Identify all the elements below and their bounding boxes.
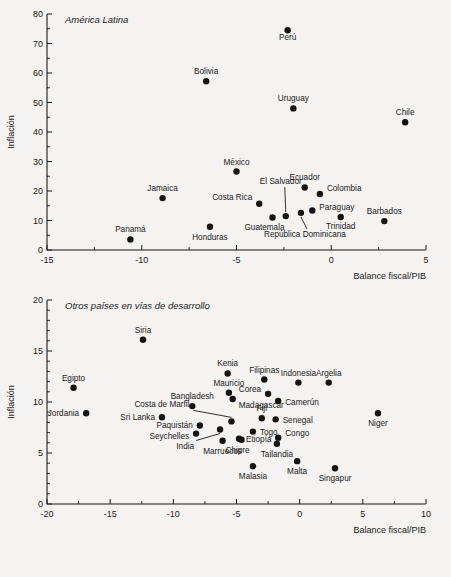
data-point[interactable]: Jamaica: [147, 184, 178, 201]
data-point-label: Egipto: [62, 374, 86, 383]
data-point-marker[interactable]: [295, 379, 301, 385]
data-point-label: Perú: [279, 33, 297, 42]
leader-line: [285, 187, 286, 212]
data-point[interactable]: El Salvador: [260, 177, 302, 219]
data-point-marker[interactable]: [294, 458, 300, 464]
data-point[interactable]: Argelia: [316, 369, 342, 386]
data-point-marker[interactable]: [193, 430, 199, 436]
data-point[interactable]: Siria: [135, 326, 152, 343]
data-point-marker[interactable]: [233, 168, 239, 174]
data-point-marker[interactable]: [302, 184, 308, 190]
data-point-marker[interactable]: [127, 236, 133, 242]
data-point-marker[interactable]: [228, 418, 234, 424]
data-point-marker[interactable]: [140, 337, 146, 343]
data-point-label: Siria: [135, 326, 152, 335]
data-point[interactable]: México: [224, 158, 250, 175]
data-point-marker[interactable]: [272, 416, 278, 422]
chart-svg-america-latina: 01020304050607080-15-10-505América Latin…: [0, 0, 451, 290]
data-point-label: Barbados: [367, 207, 402, 216]
data-point[interactable]: Trinidad: [326, 214, 356, 231]
data-point-marker[interactable]: [224, 370, 230, 376]
data-point-label: Malasia: [239, 472, 268, 481]
data-point-marker[interactable]: [265, 391, 271, 397]
data-point-marker[interactable]: [309, 207, 315, 213]
data-point-marker[interactable]: [70, 385, 76, 391]
data-point-marker[interactable]: [402, 119, 408, 125]
data-point[interactable]: Barbados: [367, 207, 402, 224]
data-point-label: Filipinas: [249, 366, 279, 375]
x-axis-title: Balance fiscal/PIB: [353, 525, 426, 535]
data-point[interactable]: Malasia: [239, 463, 268, 481]
data-point-marker[interactable]: [159, 414, 165, 420]
data-point-marker[interactable]: [203, 78, 209, 84]
data-point[interactable]: Guatemala: [244, 214, 284, 231]
data-point-label: Guatemala: [244, 223, 284, 232]
data-point[interactable]: Paraguay: [309, 203, 355, 213]
y-tick-label: 20: [33, 186, 43, 196]
data-point-marker[interactable]: [250, 463, 256, 469]
data-point-marker[interactable]: [274, 441, 280, 447]
data-point-marker[interactable]: [189, 403, 195, 409]
data-point-marker[interactable]: [381, 218, 387, 224]
data-point-label: México: [224, 158, 250, 167]
data-point-marker[interactable]: [226, 390, 232, 396]
data-point[interactable]: Senegal: [272, 416, 312, 425]
data-point-marker[interactable]: [338, 214, 344, 220]
data-point-label: Camerún: [285, 398, 319, 407]
data-point[interactable]: Costa Rica: [212, 193, 262, 207]
data-point[interactable]: Niger: [368, 410, 388, 428]
data-point-label: Congo: [285, 429, 310, 438]
data-point[interactable]: Malta: [287, 458, 307, 476]
data-point-marker[interactable]: [283, 213, 289, 219]
data-point[interactable]: Bolivia: [194, 67, 219, 84]
y-tick-label: 60: [33, 68, 43, 78]
x-tick-label: -15: [40, 255, 53, 265]
data-point[interactable]: Kenia: [217, 359, 238, 376]
data-point[interactable]: Chile: [396, 108, 415, 125]
data-point-label: Jordania: [48, 409, 80, 418]
data-point-marker[interactable]: [275, 435, 281, 441]
data-point-marker[interactable]: [217, 426, 223, 432]
data-point-marker[interactable]: [332, 465, 338, 471]
data-point[interactable]: Panamá: [115, 225, 146, 242]
data-point-marker[interactable]: [83, 410, 89, 416]
data-point[interactable]: Jordania: [48, 409, 90, 418]
data-point-marker[interactable]: [159, 195, 165, 201]
data-point-marker[interactable]: [256, 200, 262, 206]
data-point[interactable]: Egipto: [62, 374, 86, 391]
data-point-marker[interactable]: [298, 210, 304, 216]
data-point-marker[interactable]: [261, 376, 267, 382]
data-point-marker[interactable]: [269, 214, 275, 220]
data-point-marker[interactable]: [219, 438, 225, 444]
y-tick-label: 5: [38, 448, 43, 458]
data-point-label: El Salvador: [260, 177, 302, 186]
x-tick-label: -10: [167, 509, 180, 519]
data-point[interactable]: Honduras: [192, 223, 228, 241]
data-point-marker[interactable]: [375, 410, 381, 416]
data-point-marker[interactable]: [207, 223, 213, 229]
data-point[interactable]: Uruguay: [278, 94, 310, 111]
data-point-marker[interactable]: [230, 396, 236, 402]
data-point-marker[interactable]: [326, 379, 332, 385]
data-point[interactable]: Paquistán: [156, 421, 203, 430]
data-point[interactable]: Seychelles: [149, 430, 199, 440]
data-point-label: Argelia: [316, 369, 342, 378]
data-point[interactable]: Colombia: [317, 184, 362, 197]
data-point[interactable]: Singapur: [319, 465, 352, 483]
data-point-marker[interactable]: [317, 191, 323, 197]
data-point[interactable]: Congo: [275, 429, 310, 441]
data-point-marker[interactable]: [290, 105, 296, 111]
data-point-label: Corea: [239, 385, 262, 394]
data-point-marker[interactable]: [259, 415, 265, 421]
data-point[interactable]: Filipinas: [249, 366, 279, 383]
data-point[interactable]: Indonesia: [281, 369, 317, 386]
y-tick-label: 30: [33, 157, 43, 167]
data-point-label: Paraguay: [319, 203, 355, 212]
data-point[interactable]: Fiji: [257, 404, 268, 421]
x-tick-label: -5: [232, 509, 240, 519]
data-point-marker[interactable]: [238, 437, 244, 443]
data-point[interactable]: Corea: [239, 385, 272, 397]
data-point[interactable]: Perú: [279, 27, 297, 42]
data-point-label: Indonesia: [281, 369, 317, 378]
data-point-marker[interactable]: [197, 422, 203, 428]
